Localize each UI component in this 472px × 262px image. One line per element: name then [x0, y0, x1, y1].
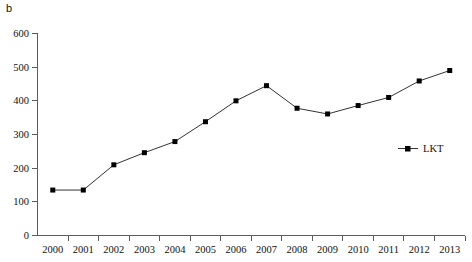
y-tick-label: 400: [13, 95, 29, 106]
y-tick-label: 0: [24, 230, 29, 241]
data-point-marker: [142, 150, 147, 155]
data-point-marker: [264, 83, 269, 88]
data-point-marker: [233, 98, 238, 103]
x-tick-label: 2000: [42, 244, 63, 255]
y-tick-label: 300: [13, 129, 29, 140]
data-point-marker: [417, 78, 422, 83]
x-tick-labels: 2000200120022003200420052006200720082009…: [42, 244, 460, 255]
data-point-marker: [386, 95, 391, 100]
x-tick-label: 2012: [409, 244, 430, 255]
data-point-marker: [81, 188, 86, 193]
x-tick-label: 2013: [439, 244, 460, 255]
data-point-marker: [111, 162, 116, 167]
figure-panel-b: b 600 500 400 300 200 100 0 200: [0, 0, 472, 262]
data-point-marker: [172, 139, 177, 144]
x-tick-label: 2006: [225, 244, 246, 255]
y-tick-label: 200: [13, 163, 29, 174]
legend: LKT: [398, 143, 444, 154]
x-tick-label: 2011: [378, 244, 399, 255]
data-point-marker: [203, 119, 208, 124]
y-tick-labels: 600 500 400 300 200 100 0: [13, 28, 29, 241]
data-point-marker: [325, 111, 330, 116]
data-point-marker: [447, 68, 452, 73]
x-tick-label: 2003: [134, 244, 155, 255]
legend-label-lkt: LKT: [423, 143, 444, 154]
line-chart: 600 500 400 300 200 100 0 20002001200220…: [0, 0, 472, 262]
x-tick-label: 2007: [256, 244, 277, 255]
x-tick-label: 2010: [348, 244, 369, 255]
y-tick-marks: [32, 34, 38, 236]
x-tick-label: 2009: [317, 244, 338, 255]
data-point-marker: [50, 188, 55, 193]
y-tick-label: 600: [13, 28, 29, 39]
series-line-lkt: [53, 71, 450, 191]
legend-marker-lkt: [405, 146, 411, 152]
data-point-marker: [356, 103, 361, 108]
data-point-marker: [295, 106, 300, 111]
x-tick-label: 2004: [164, 244, 186, 255]
x-tick-label: 2008: [287, 244, 308, 255]
x-tick-label: 2005: [195, 244, 216, 255]
x-tick-marks: [68, 236, 465, 242]
x-tick-label: 2001: [73, 244, 94, 255]
series-markers-lkt: [50, 68, 452, 193]
y-tick-label: 500: [13, 62, 29, 73]
y-tick-label: 100: [13, 196, 29, 207]
x-tick-label: 2002: [103, 244, 124, 255]
